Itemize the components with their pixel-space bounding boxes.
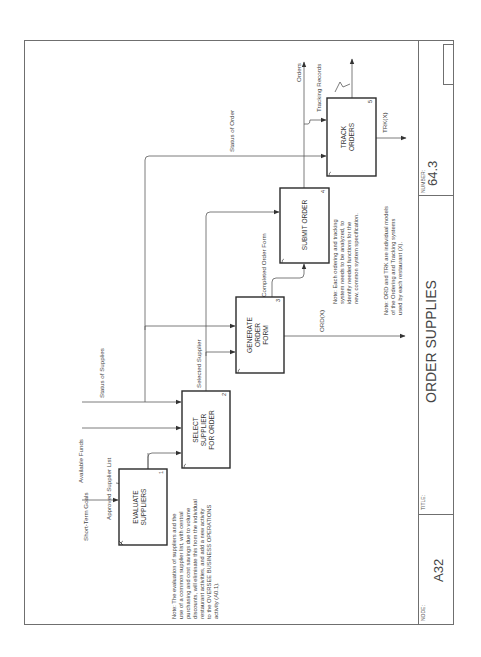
svg-text:restaurant activities, and add: restaurant activities, and add a new act… bbox=[199, 508, 205, 619]
svg-text:FORM: FORM bbox=[262, 325, 269, 344]
activity-box-3-generate-order-form[interactable]: GENERATE ORDER FORM 3 bbox=[236, 297, 284, 373]
svg-text:SUPPLIER: SUPPLIER bbox=[200, 413, 207, 446]
svg-text:Orders: Orders bbox=[295, 63, 302, 82]
svg-text:system needs to be analyzed, t: system needs to be analyzed, to bbox=[339, 221, 345, 304]
activity-box-4-submit-order[interactable]: SUBMIT ORDER 4 bbox=[280, 188, 329, 263]
node-value: A32 bbox=[431, 559, 446, 582]
note-3: Note: ORD and TRK are individual models … bbox=[383, 206, 403, 315]
activity-box-2-select-supplier[interactable]: SELECT SUPPLIER FOR ORDER 2 bbox=[182, 391, 230, 468]
revision-box bbox=[444, 45, 454, 85]
svg-text:GENERATE: GENERATE bbox=[246, 317, 253, 353]
svg-text:purchasing and cost savings du: purchasing and cost savings due to volum… bbox=[185, 508, 191, 619]
arrow-status-of-order-label: Status of Order bbox=[228, 110, 235, 152]
svg-text:SUBMIT ORDER: SUBMIT ORDER bbox=[301, 200, 308, 251]
activity-box-1-evaluate-suppliers[interactable]: EVALUATE SUPPLIERS 1 bbox=[119, 469, 167, 545]
svg-text:of the Ordering and Tracking s: of the Ordering and Tracking systems bbox=[390, 219, 396, 315]
note-2: Note: Each ordering and tracking system … bbox=[332, 213, 359, 304]
svg-text:Note: Each ordering and track: Note: Each ordering and tracking bbox=[332, 219, 338, 304]
svg-text:Short-Term Goals: Short-Term Goals bbox=[82, 493, 89, 541]
activity-box-5-track-orders[interactable]: TRACK ORDERS 5 bbox=[327, 98, 376, 176]
svg-text:TRK(X): TRK(X) bbox=[381, 112, 388, 133]
activity-number: 2 bbox=[221, 393, 227, 396]
activity-number: 4 bbox=[320, 190, 326, 193]
title-block: NODE: A32 TITLE: ORDER SUPPLIES NUMBER: … bbox=[419, 41, 454, 625]
svg-text:Selected Supplier: Selected Supplier bbox=[195, 340, 202, 389]
svg-text:identify needed functions for: identify needed functions for the bbox=[346, 222, 352, 304]
svg-text:ORDER: ORDER bbox=[254, 323, 261, 347]
svg-text:EVALUATE: EVALUATE bbox=[132, 490, 139, 524]
title-label: TITLE: bbox=[420, 495, 426, 510]
title-value: ORDER SUPPLIES bbox=[423, 280, 439, 403]
svg-text:Note: The evaluation of suppl: Note: The evaluation of suppliers and th… bbox=[171, 513, 177, 619]
arrow-short-term-goals: Short-Term Goals bbox=[82, 493, 118, 541]
svg-text:to the OVERSEE BUSINESS OPERAT: to the OVERSEE BUSINESS OPERATIONS bbox=[206, 505, 212, 619]
svg-text:Note: ORD and TRK are individ: Note: ORD and TRK are individual models bbox=[383, 206, 389, 315]
activity-number: 3 bbox=[275, 299, 281, 302]
svg-text:new, common system specificati: new, common system specification. bbox=[353, 213, 359, 304]
svg-text:ORD(X): ORD(X) bbox=[318, 310, 325, 332]
svg-text:activity (A0.1).: activity (A0.1). bbox=[213, 582, 219, 619]
svg-text:use of a common supplier list,: use of a common supplier list, with cent… bbox=[178, 511, 184, 619]
activity-number: 5 bbox=[367, 100, 373, 103]
svg-text:Tracking Records: Tracking Records bbox=[315, 64, 322, 112]
svg-text:used by each restaurant (X).: used by each restaurant (X). bbox=[397, 241, 403, 315]
svg-text:SUPPLIERS: SUPPLIERS bbox=[140, 488, 147, 526]
svg-text:Status of Supplies: Status of Supplies bbox=[98, 348, 105, 398]
svg-text:discounts, will eliminate this: discounts, will eliminate this from the … bbox=[192, 499, 198, 619]
note-1: Note: The evaluation of suppliers and th… bbox=[171, 499, 219, 619]
svg-text:SELECT: SELECT bbox=[192, 417, 199, 443]
svg-text:Completed Order Form: Completed Order Form bbox=[260, 233, 267, 297]
svg-text:Approved Supplier List: Approved Supplier List bbox=[105, 457, 112, 520]
number-value: 64.3 bbox=[425, 161, 440, 186]
svg-text:FOR ORDER: FOR ORDER bbox=[208, 410, 215, 450]
svg-text:TRACK: TRACK bbox=[340, 125, 347, 148]
svg-text:ORDERS: ORDERS bbox=[348, 122, 355, 151]
activity-number: 1 bbox=[158, 471, 164, 474]
node-label: NODE: bbox=[420, 605, 426, 621]
arrow-trk-x: TRK(X) bbox=[376, 112, 406, 138]
svg-text:Available Funds: Available Funds bbox=[77, 439, 84, 483]
idef0-diagram: NODE: A32 TITLE: ORDER SUPPLIES NUMBER: … bbox=[0, 0, 481, 657]
